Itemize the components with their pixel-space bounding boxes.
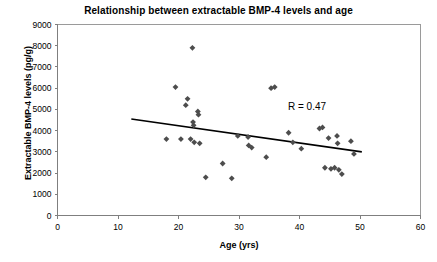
data-point-marker: [263, 154, 269, 160]
data-point-marker: [348, 138, 354, 144]
data-point-marker: [185, 96, 191, 102]
x-tick-label: 60: [416, 222, 426, 232]
data-point-marker: [173, 84, 179, 90]
data-point-marker: [290, 139, 296, 145]
scatter-plot-canvas: 0100020003000400050006000700080009000 01…: [0, 0, 437, 262]
y-tick-label: 5000: [33, 104, 52, 114]
data-point-marker: [286, 130, 292, 136]
y-tick-label: 8000: [33, 41, 52, 51]
data-point-marker: [190, 45, 196, 51]
x-tick-label: 20: [174, 222, 184, 232]
data-point-marker: [351, 151, 357, 157]
chart-figure: Relationship between extractable BMP-4 l…: [0, 0, 437, 262]
data-point-marker: [334, 133, 340, 139]
data-point-marker: [183, 102, 189, 108]
data-point-marker: [178, 136, 184, 142]
data-point-marker: [203, 174, 209, 180]
data-point-marker: [326, 135, 332, 141]
y-tick-label: 6000: [33, 83, 52, 93]
x-tick-label: 40: [295, 222, 305, 232]
x-tick-label: 10: [113, 222, 123, 232]
trendline: [131, 119, 362, 152]
data-point-marker: [339, 171, 345, 177]
data-point-marker: [229, 175, 235, 181]
data-point-markers: [164, 45, 357, 181]
y-axis-ticks: 0100020003000400050006000700080009000: [33, 20, 58, 221]
y-tick-label: 2000: [33, 168, 52, 178]
y-tick-label: 4000: [33, 126, 52, 136]
data-point-marker: [164, 136, 170, 142]
y-tick-label: 1000: [33, 189, 52, 199]
y-tick-label: 3000: [33, 147, 52, 157]
y-tick-label: 9000: [33, 20, 52, 30]
y-tick-label: 0: [47, 211, 52, 221]
data-point-marker: [335, 140, 341, 146]
trendline-segment: [131, 119, 362, 152]
data-point-marker: [298, 146, 304, 152]
x-axis-ticks: 0102030405060: [55, 216, 425, 232]
x-tick-label: 30: [234, 222, 244, 232]
plot-area-border: [58, 25, 421, 216]
data-point-marker: [322, 165, 328, 171]
x-tick-label: 50: [355, 222, 365, 232]
data-point-marker: [197, 140, 203, 146]
x-tick-label: 0: [55, 222, 60, 232]
y-tick-label: 7000: [33, 62, 52, 72]
data-point-marker: [220, 161, 226, 167]
